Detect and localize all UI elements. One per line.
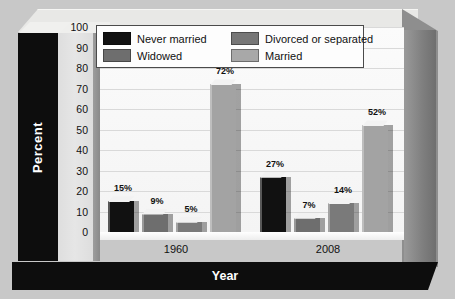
bar-highlight bbox=[210, 84, 212, 232]
y-tick-label: 80 bbox=[58, 62, 88, 74]
y-tick-label: 40 bbox=[58, 144, 88, 156]
bar bbox=[176, 222, 202, 232]
y-tick-label: 70 bbox=[58, 83, 88, 95]
y-tick-label: 10 bbox=[58, 206, 88, 218]
bar-face bbox=[210, 84, 236, 232]
bar bbox=[260, 177, 286, 232]
bar bbox=[328, 203, 354, 232]
x-axis-title-text: Year bbox=[212, 269, 238, 283]
legend-item[interactable]: Never married bbox=[103, 32, 231, 45]
bar-value-label: 5% bbox=[184, 204, 197, 214]
y-tick-label: 60 bbox=[58, 103, 88, 115]
bar-face bbox=[328, 203, 354, 232]
y-axis-title: Percent bbox=[18, 33, 58, 261]
bar-side-face bbox=[354, 203, 359, 232]
bar-highlight bbox=[142, 214, 144, 232]
bar-value-label: 15% bbox=[114, 183, 132, 193]
y-tick-label: 50 bbox=[58, 124, 88, 136]
gridline bbox=[100, 150, 404, 151]
gridline bbox=[100, 109, 404, 110]
legend-swatch bbox=[231, 49, 259, 62]
legend-label: Married bbox=[265, 50, 302, 62]
bar-side-face bbox=[236, 84, 241, 232]
y-tick-label: 0 bbox=[58, 226, 88, 238]
bar bbox=[294, 218, 320, 232]
legend-item[interactable]: Married bbox=[231, 49, 373, 62]
bar-face bbox=[176, 222, 202, 232]
gridline bbox=[100, 191, 404, 192]
plot-floor bbox=[100, 232, 404, 240]
bar-highlight bbox=[362, 125, 364, 232]
bar-face bbox=[142, 214, 168, 232]
legend-label: Never married bbox=[137, 33, 207, 45]
chart-canvas: Percent 1009080706050403020100 15%9%5%72… bbox=[0, 0, 455, 299]
bar-side-face bbox=[320, 218, 325, 232]
gridline bbox=[100, 171, 404, 172]
x-category-label: 2008 bbox=[316, 243, 340, 255]
bar bbox=[108, 201, 134, 232]
bar-face bbox=[260, 177, 286, 232]
bar-value-label: 7% bbox=[302, 200, 315, 210]
bar-value-label: 27% bbox=[266, 159, 284, 169]
legend-item[interactable]: Divorced or separated bbox=[231, 32, 373, 45]
bar-value-label: 52% bbox=[368, 107, 386, 117]
bar bbox=[210, 84, 236, 232]
bar-highlight bbox=[294, 218, 296, 232]
bar bbox=[142, 214, 168, 232]
y-tick-label: 90 bbox=[58, 42, 88, 54]
bar-highlight bbox=[108, 201, 110, 232]
y-axis-title-text: Percent bbox=[31, 121, 46, 172]
bar-side-face bbox=[202, 222, 207, 232]
gridline bbox=[100, 130, 404, 131]
bar-value-label: 14% bbox=[334, 185, 352, 195]
legend-swatch bbox=[103, 49, 131, 62]
bar-face bbox=[362, 125, 388, 232]
bar bbox=[362, 125, 388, 232]
y-tick-label: 20 bbox=[58, 185, 88, 197]
gridline bbox=[100, 68, 404, 69]
gridline bbox=[100, 89, 404, 90]
bar-face bbox=[294, 218, 320, 232]
chart-legend: Never marriedDivorced or separatedWidowe… bbox=[96, 25, 364, 68]
x-category-label: 1960 bbox=[164, 243, 188, 255]
bar-side-face bbox=[388, 125, 393, 232]
bar-face bbox=[108, 201, 134, 232]
legend-item[interactable]: Widowed bbox=[103, 49, 231, 62]
bar-highlight bbox=[328, 203, 330, 232]
bar-highlight bbox=[260, 177, 262, 232]
y-tick-label: 30 bbox=[58, 165, 88, 177]
bar-value-label: 9% bbox=[150, 196, 163, 206]
legend-label: Divorced or separated bbox=[265, 33, 373, 45]
x-axis-title: Year bbox=[12, 262, 438, 290]
bar-side-face bbox=[134, 201, 139, 232]
bar-side-face bbox=[286, 177, 291, 232]
y-tick-label: 100 bbox=[58, 21, 88, 33]
bar-side-face bbox=[168, 214, 173, 232]
legend-swatch bbox=[231, 32, 259, 45]
legend-label: Widowed bbox=[137, 50, 182, 62]
bar-highlight bbox=[176, 222, 178, 232]
frame-right-wall bbox=[404, 30, 436, 262]
legend-swatch bbox=[103, 32, 131, 45]
